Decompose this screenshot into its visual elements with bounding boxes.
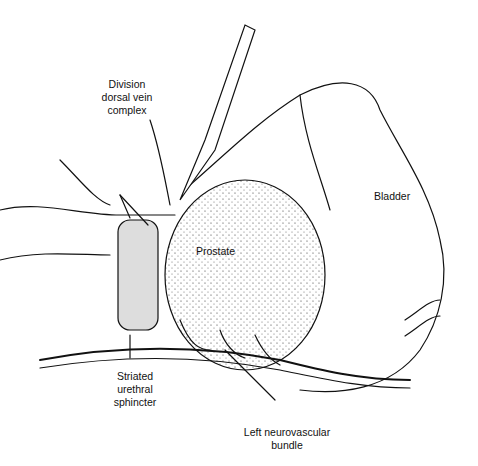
- label-dorsal-vein: Division dorsal vein complex: [92, 78, 162, 117]
- label-bladder: Bladder: [374, 190, 410, 203]
- anatomy-drawing: [0, 0, 478, 466]
- illustration: Division dorsal vein complex Bladder Pro…: [0, 0, 478, 466]
- prostate-outline: [165, 180, 325, 370]
- label-sphincter: Striated urethral sphincter: [105, 370, 165, 409]
- sphincter: [118, 220, 158, 330]
- label-neurovascular: Left neurovascular bundle: [237, 426, 337, 452]
- label-prostate: Prostate: [196, 245, 235, 258]
- scalpel: [180, 25, 255, 200]
